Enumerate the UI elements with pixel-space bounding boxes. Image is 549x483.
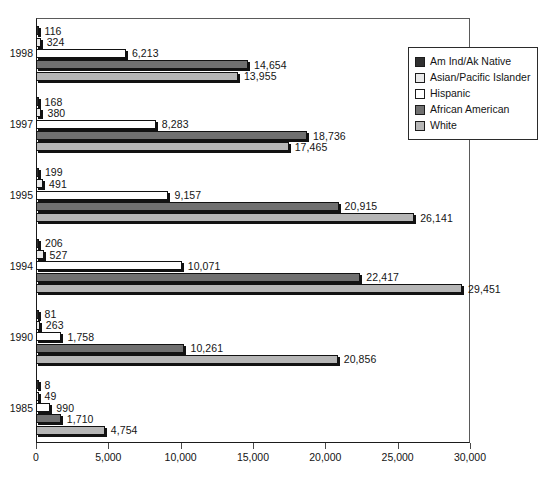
legend-item-am-ind-ak-native[interactable]: Am Ind/Ak Native <box>415 54 530 69</box>
bar-1994-african-american[interactable] <box>36 273 360 282</box>
bar-1994-asian-pacific-islander[interactable] <box>36 250 44 259</box>
bar-value-label: 20,856 <box>344 354 377 365</box>
bar-1985-am-ind-ak-native[interactable] <box>36 380 39 389</box>
bar-row: 10,261 <box>36 344 470 353</box>
bar-value-label: 20,915 <box>345 201 378 212</box>
x-tick-label: 25,000 <box>382 452 414 463</box>
legend-item-white[interactable]: White <box>415 118 530 133</box>
bar-value-label: 49 <box>45 391 57 402</box>
bar-1985-asian-pacific-islander[interactable] <box>36 392 39 401</box>
bar-value-label: 324 <box>47 37 65 48</box>
year-group-1990: 812631,75810,26120,856 <box>36 301 470 372</box>
bar-value-label: 10,071 <box>188 261 221 272</box>
bar-value-label: 9,157 <box>174 190 201 201</box>
bar-value-label: 26,141 <box>420 212 453 223</box>
bar-value-label: 22,417 <box>366 272 399 283</box>
bar-row: 18,736 <box>36 131 470 140</box>
bar-1985-african-american[interactable] <box>36 414 61 423</box>
bar-1998-white[interactable] <box>36 72 238 81</box>
bar-chart: 199819971995199419901985 1163246,21314,6… <box>0 0 549 483</box>
bar-1998-hispanic[interactable] <box>36 49 126 58</box>
bar-row: 13,955 <box>36 72 470 81</box>
bar-row: 1,758 <box>36 332 470 341</box>
bar-1995-am-ind-ak-native[interactable] <box>36 168 39 177</box>
bar-value-label: 199 <box>45 167 63 178</box>
bar-value-label: 116 <box>45 26 62 37</box>
legend-item-hispanic[interactable]: Hispanic <box>415 86 530 101</box>
bar-row: 990 <box>36 403 470 412</box>
bar-1998-african-american[interactable] <box>36 60 248 69</box>
bar-1995-hispanic[interactable] <box>36 191 168 200</box>
bar-row: 10,071 <box>36 261 470 270</box>
bar-1998-asian-pacific-islander[interactable] <box>36 38 41 47</box>
bar-1997-white[interactable] <box>36 142 289 151</box>
y-axis-label-1990: 1990 <box>10 332 33 343</box>
bar-value-label: 8,283 <box>162 119 189 130</box>
x-tick-label: 20,000 <box>309 452 341 463</box>
legend-swatch-icon <box>415 57 425 67</box>
bar-value-label: 29,451 <box>468 283 501 294</box>
bar-1990-am-ind-ak-native[interactable] <box>36 310 39 319</box>
bar-1994-hispanic[interactable] <box>36 261 182 270</box>
x-tick-label: 5,000 <box>95 452 121 463</box>
bar-value-label: 491 <box>49 179 67 190</box>
bar-1985-white[interactable] <box>36 426 105 435</box>
legend-swatch-icon <box>415 89 425 99</box>
bar-value-label: 1,758 <box>67 331 94 342</box>
bar-row: 527 <box>36 250 470 259</box>
bar-1997-am-ind-ak-native[interactable] <box>36 97 39 106</box>
bar-row: 324 <box>36 38 470 47</box>
bar-row: 491 <box>36 179 470 188</box>
year-group-1997: 1683808,28318,73617,465 <box>36 89 470 160</box>
bar-1997-asian-pacific-islander[interactable] <box>36 108 41 117</box>
legend-item-african-american[interactable]: African American <box>415 102 530 117</box>
bar-row: 206 <box>36 239 470 248</box>
bar-row: 8,283 <box>36 120 470 129</box>
bar-1995-asian-pacific-islander[interactable] <box>36 179 43 188</box>
y-axis-label-1985: 1985 <box>10 403 33 414</box>
bar-row: 17,465 <box>36 142 470 151</box>
bar-1985-hispanic[interactable] <box>36 403 50 412</box>
bar-value-label: 206 <box>45 238 63 249</box>
bar-1998-am-ind-ak-native[interactable] <box>36 26 39 35</box>
bar-row: 9,157 <box>36 191 470 200</box>
bar-row: 29,451 <box>36 284 470 293</box>
bar-row: 20,915 <box>36 202 470 211</box>
bar-value-label: 263 <box>46 320 64 331</box>
year-group-1998: 1163246,21314,65413,955 <box>36 18 470 89</box>
bar-value-label: 18,736 <box>313 130 346 141</box>
bar-value-label: 8 <box>45 380 51 391</box>
bar-1997-african-american[interactable] <box>36 131 307 140</box>
bar-row: 6,213 <box>36 49 470 58</box>
legend-item-asian-pacific-islander[interactable]: Asian/Pacific Islander <box>415 70 530 85</box>
bar-1990-hispanic[interactable] <box>36 332 61 341</box>
bar-1995-african-american[interactable] <box>36 202 339 211</box>
year-group-1985: 8499901,7104,754 <box>36 372 470 443</box>
bar-1995-white[interactable] <box>36 213 414 222</box>
bar-row: 263 <box>36 321 470 330</box>
bar-1990-white[interactable] <box>36 355 338 364</box>
bar-1990-african-american[interactable] <box>36 344 184 353</box>
bar-1994-white[interactable] <box>36 284 462 293</box>
bar-value-label: 380 <box>47 108 65 119</box>
bar-row: 26,141 <box>36 213 470 222</box>
bar-row: 380 <box>36 108 470 117</box>
legend-label: African American <box>430 104 509 115</box>
bar-row: 168 <box>36 97 470 106</box>
bar-1997-hispanic[interactable] <box>36 120 156 129</box>
legend-label: Am Ind/Ak Native <box>430 56 511 67</box>
legend-swatch-icon <box>415 121 425 131</box>
x-tick <box>253 443 254 449</box>
bar-1994-am-ind-ak-native[interactable] <box>36 239 39 248</box>
y-axis-label-1998: 1998 <box>10 48 33 59</box>
bars-layer: 1163246,21314,65413,9551683808,28318,736… <box>36 18 470 443</box>
x-axis: 05,00010,00015,00020,00025,00030,000 <box>36 443 470 483</box>
x-tick <box>325 443 326 449</box>
bar-1990-asian-pacific-islander[interactable] <box>36 321 40 330</box>
bar-row: 116 <box>36 26 470 35</box>
bar-value-label: 1,710 <box>67 414 94 425</box>
x-tick <box>470 443 471 449</box>
bar-value-label: 527 <box>50 249 68 260</box>
x-tick-label: 10,000 <box>165 452 197 463</box>
y-axis-label-1997: 1997 <box>10 119 33 130</box>
